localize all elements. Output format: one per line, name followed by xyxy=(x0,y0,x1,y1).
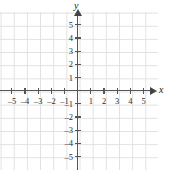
x-tick-label: 4 xyxy=(128,97,132,106)
y-tick-mark xyxy=(75,51,81,52)
x-tick-mark xyxy=(24,88,25,94)
x-tick-label: 2 xyxy=(102,97,106,106)
x-tick-mark xyxy=(38,88,39,94)
y-tick-label: 5 xyxy=(69,21,73,30)
y-tick-label: 4 xyxy=(69,34,73,43)
y-tick-mark xyxy=(75,103,81,104)
x-tick-label: 1 xyxy=(89,97,93,106)
x-tick-mark xyxy=(11,88,12,94)
x-tick-mark xyxy=(130,88,131,94)
y-tick-mark xyxy=(75,64,81,65)
y-tick-label: –2 xyxy=(65,113,74,122)
x-tick-label: –3 xyxy=(34,97,43,106)
y-tick-label: –1 xyxy=(65,100,74,109)
x-tick-mark xyxy=(64,88,65,94)
y-tick-mark xyxy=(75,37,81,38)
x-tick-mark xyxy=(117,88,118,94)
coordinate-plane-figure: x y –5–4–3–2–112345 54321–1–2–3–4–5 xyxy=(0,0,169,178)
y-tick-mark xyxy=(75,156,81,157)
x-tick-label: –4 xyxy=(21,97,30,106)
y-tick-mark xyxy=(75,130,81,131)
x-tick-label: –2 xyxy=(47,97,56,106)
arrow-right-icon xyxy=(150,87,157,95)
x-axis-label: x xyxy=(159,85,163,95)
y-tick-label: –5 xyxy=(65,152,74,161)
x-tick-mark xyxy=(143,88,144,94)
y-tick-label: –3 xyxy=(65,126,74,135)
y-tick-label: 2 xyxy=(69,60,73,69)
x-tick-mark xyxy=(51,88,52,94)
y-tick-label: 1 xyxy=(69,73,73,82)
x-tick-mark xyxy=(103,88,104,94)
y-tick-mark xyxy=(75,24,81,25)
x-tick-label: –5 xyxy=(8,97,17,106)
y-tick-mark xyxy=(75,143,81,144)
y-tick-mark xyxy=(75,116,81,117)
x-tick-label: 5 xyxy=(141,97,145,106)
y-tick-mark xyxy=(75,77,81,78)
x-tick-mark xyxy=(90,88,91,94)
x-tick-label: 3 xyxy=(115,97,119,106)
y-tick-label: –4 xyxy=(65,139,74,148)
y-tick-label: 3 xyxy=(69,47,73,56)
y-axis-label: y xyxy=(74,1,78,11)
